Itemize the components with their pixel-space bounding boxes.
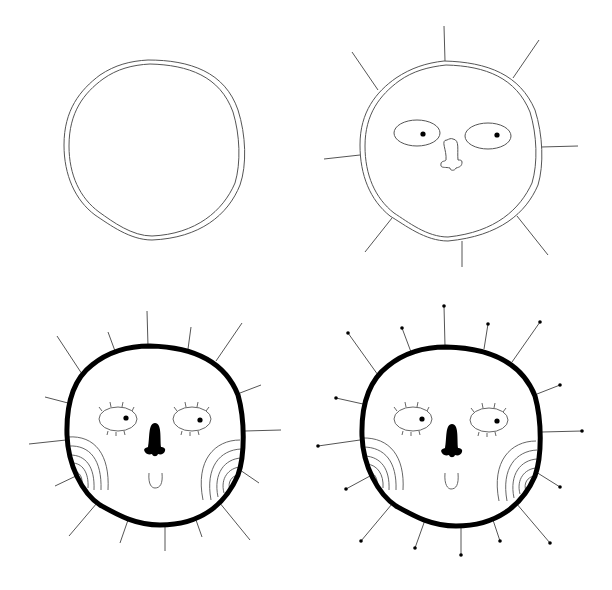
left-pupil xyxy=(123,415,128,420)
left-pupil xyxy=(419,416,424,421)
right-pupil xyxy=(494,418,499,423)
right-pupil xyxy=(494,132,499,137)
drawing-canvas: How to draw a sun face – 4 steps Step 1:… xyxy=(0,0,612,590)
right-pupil xyxy=(197,417,202,422)
left-pupil xyxy=(420,131,425,136)
